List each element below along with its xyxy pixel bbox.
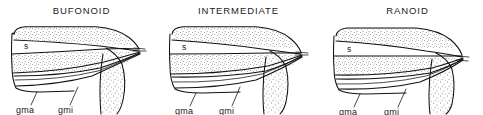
label-gracilis-minor: gmi xyxy=(384,107,399,115)
panel-ranoid: RANOID xyxy=(320,0,481,115)
leader-gmi xyxy=(70,87,78,105)
panel-title-bufonoid: BUFONOID xyxy=(0,5,161,16)
leader-gma xyxy=(31,92,37,105)
leader-gmi xyxy=(232,87,240,106)
label-gracilis-major: gma xyxy=(16,105,34,115)
leader-gma xyxy=(190,93,196,106)
band-line-2 xyxy=(170,53,301,54)
label-gracilis-minor: gmi xyxy=(219,106,234,115)
diagram-intermediate: s gma gmi xyxy=(158,18,319,115)
label-sartorius: s xyxy=(24,41,28,51)
muscle-morphology-figure: BUFONOID xyxy=(0,0,483,115)
tendon-tip-2 xyxy=(456,60,468,61)
panel-title-ranoid: RANOID xyxy=(320,5,481,16)
leader-gma xyxy=(354,94,360,107)
panel-bufonoid: BUFONOID xyxy=(0,0,161,115)
panel-intermediate: INTERMEDIATE xyxy=(158,0,319,115)
diagram-ranoid: s gma gmi xyxy=(320,18,481,115)
label-gracilis-major: gma xyxy=(175,106,193,115)
label-sartorius: s xyxy=(182,42,186,52)
panel-title-intermediate: INTERMEDIATE xyxy=(158,5,319,16)
leader-gmi xyxy=(398,89,406,107)
label-gracilis-minor: gmi xyxy=(58,105,73,115)
label-gracilis-major: gma xyxy=(339,107,357,115)
outline-corner-upper xyxy=(12,33,14,34)
label-sartorius: s xyxy=(347,44,351,54)
diagram-bufonoid: s gma gmi xyxy=(0,18,161,115)
